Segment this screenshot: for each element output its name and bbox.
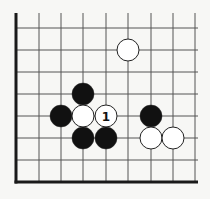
black-stone <box>72 127 94 149</box>
white-stone: 1 <box>95 105 117 127</box>
black-stone <box>140 105 162 127</box>
white-stone <box>140 127 162 149</box>
white-stone <box>117 39 139 61</box>
grid-lines <box>16 13 198 182</box>
white-stone <box>72 105 94 127</box>
move-number-label: 1 <box>102 110 110 124</box>
black-stone <box>95 127 117 149</box>
black-stone <box>72 83 94 105</box>
go-board: 1 <box>0 0 210 199</box>
white-stone <box>162 127 184 149</box>
black-stone <box>50 105 72 127</box>
